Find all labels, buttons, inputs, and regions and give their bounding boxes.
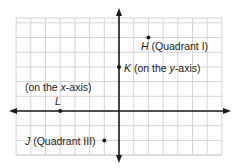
- y-axis-up-arrow-icon: [116, 8, 122, 16]
- point-j-label: J (Quadrant III): [25, 136, 96, 147]
- point-l-dot: [58, 109, 62, 113]
- point-h-name: H: [141, 40, 149, 52]
- point-h-dot: [146, 36, 150, 40]
- point-l-note: (on the x-axis): [25, 82, 92, 93]
- point-l-name: L: [55, 96, 61, 107]
- y-axis-down-arrow-icon: [116, 155, 122, 163]
- point-h-note: (Quadrant I): [149, 40, 209, 52]
- point-l-note-end: -axis): [66, 81, 92, 93]
- point-k-dot: [117, 65, 121, 69]
- point-l-note-start: (on the: [25, 81, 61, 93]
- point-j-dot: [102, 138, 106, 142]
- point-k-name: K: [124, 62, 131, 74]
- point-k-label: K (on the y-axis): [124, 63, 200, 74]
- point-k-note: (on the: [131, 62, 170, 74]
- point-k-note-end: -axis): [175, 62, 201, 74]
- point-j-note: (Quadrant III): [30, 135, 95, 147]
- x-axis-left-arrow-icon: [9, 108, 17, 114]
- point-h-label: H (Quadrant I): [141, 41, 208, 52]
- x-axis-right-arrow-icon: [223, 108, 231, 114]
